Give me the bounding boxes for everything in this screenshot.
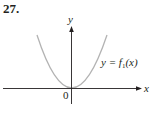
curve-label: y = f1(x): [100, 56, 138, 70]
x-axis-label: x: [143, 82, 149, 94]
y-axis-arrow-icon: [69, 26, 74, 32]
curve-label-prefix: y = f: [100, 56, 124, 68]
x-axis-arrow-icon: [136, 86, 142, 91]
origin-label: 0: [63, 89, 69, 101]
y-axis-label: y: [67, 13, 73, 25]
parabola-curve: [37, 35, 107, 88]
graph: y x 0 y = f1(x): [0, 0, 154, 113]
figure-27: 27. y x 0 y = f1(x): [0, 0, 154, 113]
problem-number: 27.: [3, 1, 19, 17]
curve-label-suffix: (x): [125, 56, 138, 69]
